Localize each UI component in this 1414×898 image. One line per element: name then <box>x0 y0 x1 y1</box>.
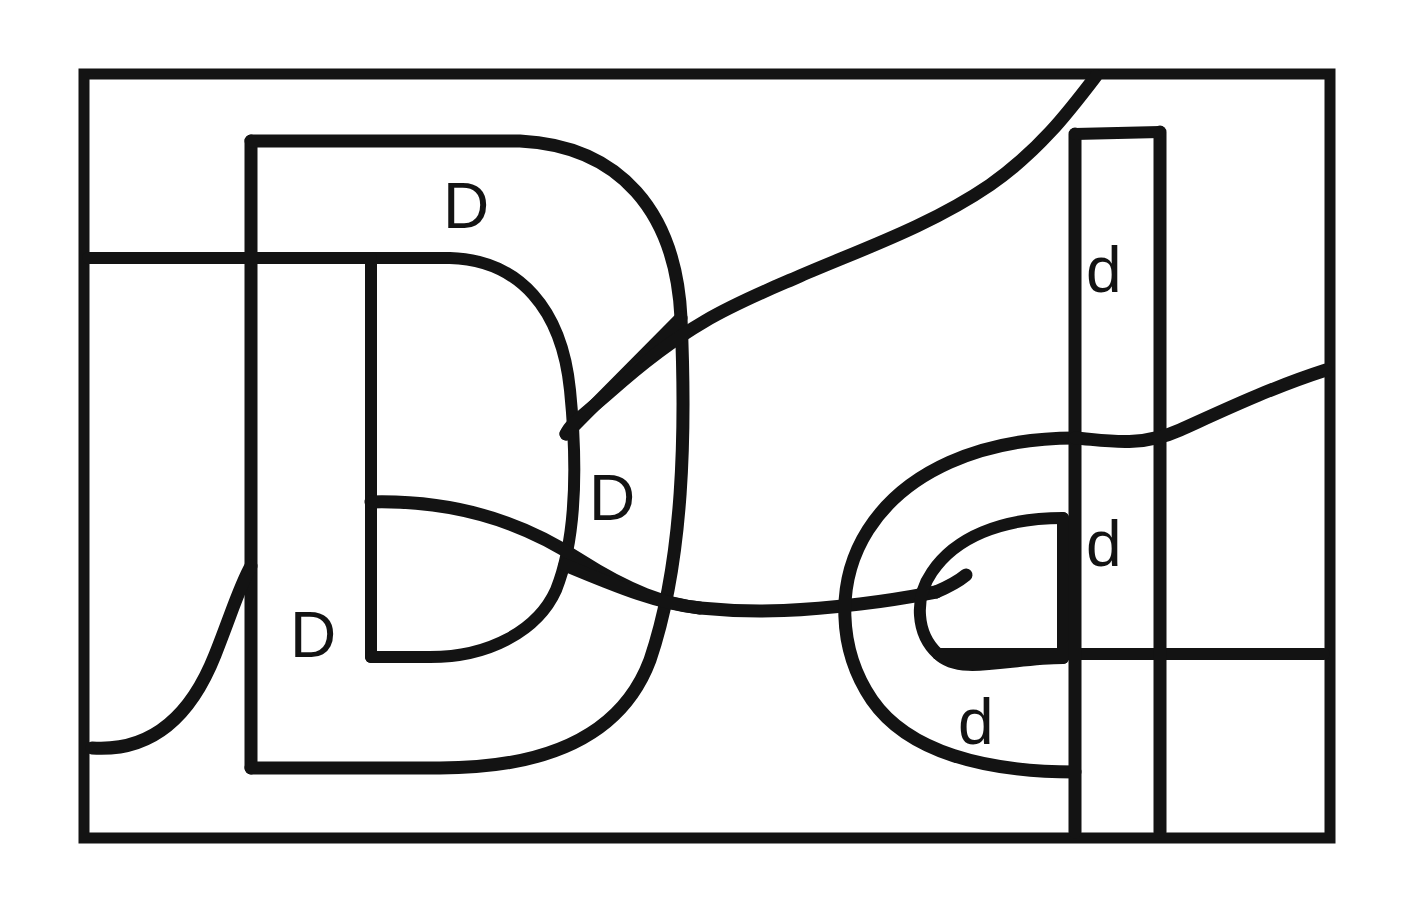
label-d-2: d <box>1086 512 1122 576</box>
right-box-top-cap <box>1075 132 1160 134</box>
mid-to-right-connector <box>936 575 966 592</box>
mid-horizontal-curve <box>565 565 936 611</box>
right-border-curve <box>1075 370 1326 442</box>
left-tail-curve <box>92 566 251 748</box>
label-D-1: D <box>443 174 489 238</box>
sigmoid-top-curve <box>566 76 1096 434</box>
label-d-1: d <box>1086 238 1122 302</box>
label-d-3: d <box>958 690 994 754</box>
outer-rectangle <box>84 74 1330 838</box>
diagram-svg <box>0 0 1414 898</box>
inner-D-bowl <box>371 258 574 657</box>
label-D-3: D <box>290 603 336 667</box>
diagram-canvas: D D D d d d <box>0 0 1414 898</box>
label-D-2: D <box>589 466 635 530</box>
